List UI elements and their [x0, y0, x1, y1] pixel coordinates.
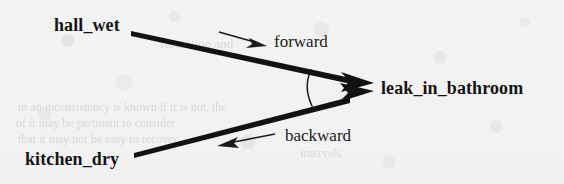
backward-direction-arrow — [217, 134, 275, 148]
node-label-hall-wet: hall_wet — [54, 15, 120, 36]
edge-label-forward: forward — [274, 32, 328, 52]
node-label-kitchen-dry: kitchen_dry — [25, 149, 119, 170]
node-label-leak-in-bathroom: leak_in_bathroom — [381, 78, 523, 99]
forward-direction-arrow — [219, 32, 267, 48]
edge-label-backward: backward — [285, 126, 351, 146]
figure-canvas: formation and in an inconsistency is kno… — [0, 0, 564, 184]
angle-arc-marker — [307, 70, 312, 106]
backward-edge-arrow — [134, 83, 374, 158]
